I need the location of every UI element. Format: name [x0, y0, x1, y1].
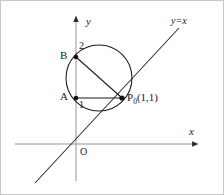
point-p0-label-coords: (1,1)	[137, 91, 158, 103]
line-equation-label: y=x	[171, 16, 187, 26]
geometry-figure: y x O B A 2 1 P0(1,1) y=x	[0, 0, 224, 195]
point-p0-marker	[119, 95, 124, 100]
geometry-canvas	[1, 1, 224, 195]
x-axis-label: x	[189, 126, 194, 137]
point-a-marker	[74, 96, 79, 101]
y-axis-label: y	[86, 16, 91, 27]
y-tick-label-2: 2	[79, 41, 84, 51]
point-a-label: A	[60, 91, 68, 102]
point-p0-label: P0(1,1)	[127, 92, 158, 106]
point-b-label: B	[60, 50, 67, 61]
chord-b-p0	[76, 57, 122, 98]
origin-label: O	[80, 147, 87, 157]
point-b-marker	[74, 55, 79, 60]
y-tick-label-1: 1	[79, 100, 84, 110]
